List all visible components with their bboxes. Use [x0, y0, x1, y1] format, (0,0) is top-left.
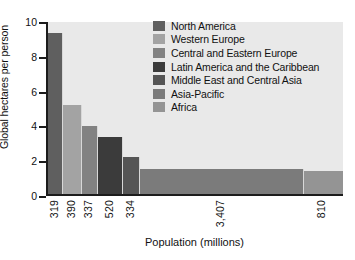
y-tick-mark	[39, 22, 46, 24]
legend-swatch-icon	[153, 21, 165, 31]
legend-item: Middle East and Central Asia	[153, 73, 319, 87]
bar-chart-figure: Global hectares per person 0246810 31939…	[0, 0, 355, 260]
x-tick-label: 810	[315, 200, 327, 218]
y-tick-label: 6	[31, 86, 37, 98]
legend-swatch-icon	[153, 62, 165, 72]
legend-label: Latin America and the Caribbean	[171, 61, 319, 73]
legend-item: Asia-Pacific	[153, 87, 319, 101]
x-tick-label: 520	[103, 200, 115, 218]
y-tick-mark	[39, 92, 46, 94]
y-tick-mark	[39, 126, 46, 128]
legend-label: North America	[171, 20, 236, 32]
legend-label: Western Europe	[171, 33, 245, 45]
bar	[63, 105, 82, 194]
legend-swatch-icon	[153, 34, 165, 44]
bar	[304, 171, 343, 194]
legend-label: Central and Eastern Europe	[171, 47, 297, 59]
legend-label: Africa	[171, 101, 197, 113]
y-axis-title: Global hectares per person	[0, 0, 10, 174]
y-tick-mark	[39, 196, 46, 198]
legend-swatch-icon	[153, 89, 165, 99]
y-tick-label: 2	[31, 155, 37, 167]
y-tick-mark	[39, 161, 46, 163]
y-tick-mark	[39, 57, 46, 59]
x-tick-label: 334	[124, 200, 136, 218]
bar	[48, 33, 63, 194]
bar	[82, 126, 98, 194]
x-tick-label: 3,407	[214, 200, 226, 227]
legend-swatch-icon	[153, 48, 165, 58]
x-axis-ticks: 3193903375203343,407810	[46, 196, 343, 197]
legend-item: Africa	[153, 101, 319, 115]
y-tick-label: 0	[31, 190, 37, 202]
y-tick-label: 10	[25, 16, 37, 28]
x-tick-label: 319	[48, 200, 60, 218]
legend-item: North America	[153, 19, 319, 33]
y-tick-label: 8	[31, 51, 37, 63]
bar	[98, 137, 123, 194]
x-tick-label: 390	[65, 200, 77, 218]
legend-swatch-icon	[153, 75, 165, 85]
legend-item: Central and Eastern Europe	[153, 46, 319, 60]
bar	[123, 157, 139, 194]
legend-item: Western Europe	[153, 33, 319, 47]
y-tick-label: 4	[31, 120, 37, 132]
legend-swatch-icon	[153, 102, 165, 112]
x-axis-title: Population (millions)	[46, 236, 343, 248]
legend-label: Middle East and Central Asia	[171, 74, 302, 86]
x-tick-label: 337	[82, 200, 94, 218]
legend-item: Latin America and the Caribbean	[153, 60, 319, 74]
legend: North AmericaWestern EuropeCentral and E…	[153, 19, 319, 114]
legend-label: Asia-Pacific	[171, 88, 224, 100]
bar	[140, 169, 304, 194]
